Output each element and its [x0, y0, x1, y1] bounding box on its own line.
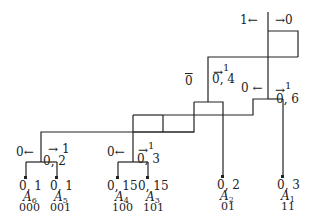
node-03-value: 0, 3 — [137, 153, 160, 165]
root-bit-1: 1 — [240, 13, 248, 27]
root-left-label: 1← — [240, 14, 258, 26]
leaf-code: 101 — [143, 202, 164, 214]
left-arrow-icon: ← — [115, 145, 125, 159]
leaf-code: 11 — [281, 201, 295, 213]
leaf-code: 001 — [50, 202, 71, 214]
root-bit-0: 0 — [285, 13, 293, 27]
left-arrow-icon: ← — [24, 145, 34, 159]
node-06-value: 0, 6 — [276, 93, 299, 105]
left-arrow-icon: ← — [252, 81, 262, 95]
node-03-bit-0: 0 — [107, 145, 115, 159]
leaf-code: 01 — [221, 201, 235, 213]
right-arrow-icon: → — [275, 13, 285, 27]
leaf-code: 100 — [112, 202, 133, 214]
node-02-value: 0, 2 — [43, 155, 66, 167]
left-arrow-icon: ← — [248, 13, 258, 27]
node-06-left-label: 0 ← — [241, 82, 263, 94]
node-03-left-label: 0← — [107, 146, 125, 158]
node-04-value: 0, 4 — [212, 73, 235, 85]
node-04-left-label: 0 — [185, 75, 193, 87]
node-06-bit-1: 1 — [285, 80, 291, 91]
root-right-label: →0 — [275, 14, 293, 26]
node-03-bit-1: 1 — [148, 140, 154, 151]
node-02-bit-0: 0 — [16, 145, 24, 159]
node-02-left-label: 0← — [16, 146, 34, 158]
node-06-bit-0: 0 — [241, 81, 249, 95]
leaf-code: 000 — [19, 202, 40, 214]
